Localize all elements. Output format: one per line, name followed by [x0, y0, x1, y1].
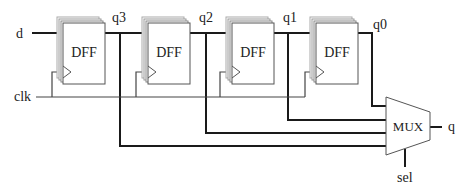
dff-block-0: DFF — [310, 17, 358, 84]
label-q0: q0 — [373, 17, 387, 32]
dff-label: DFF — [156, 45, 182, 60]
dff-label: DFF — [240, 45, 266, 60]
mux-block: MUX — [386, 97, 430, 155]
label-q: q — [448, 119, 455, 134]
label-sel: sel — [397, 170, 413, 185]
wire-q0-mux — [358, 33, 386, 106]
dff-block-2: DFF — [142, 17, 190, 84]
label-q1: q1 — [283, 10, 297, 25]
label-clk: clk — [14, 89, 31, 104]
dff-label: DFF — [324, 45, 350, 60]
label-d: d — [16, 26, 23, 41]
dff-label: DFF — [71, 45, 97, 60]
circuit-diagram: DFF DFF DFF DFF MUX d clk q3 q2 q1 q0 q … — [0, 0, 470, 193]
label-q3: q3 — [112, 10, 126, 25]
dff-block-1: DFF — [226, 17, 274, 84]
diagram-svg: DFF DFF DFF DFF MUX d clk q3 q2 q1 q0 q … — [0, 0, 470, 193]
dff-block-3: DFF — [57, 17, 105, 84]
label-q2: q2 — [199, 10, 213, 25]
mux-label: MUX — [393, 119, 424, 134]
